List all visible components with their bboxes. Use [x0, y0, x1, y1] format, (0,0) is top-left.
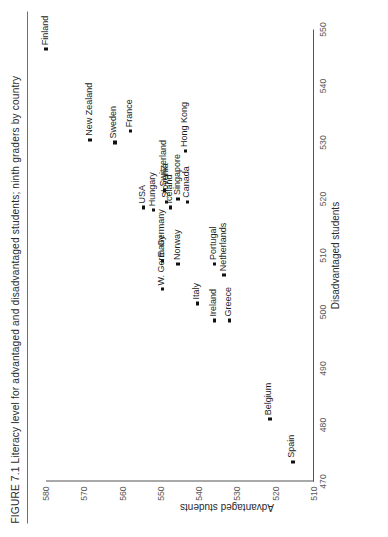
- data-point-label: Belgium: [263, 382, 273, 415]
- data-point-label: Finland: [40, 15, 50, 45]
- data-point-label: Hungary: [147, 172, 157, 206]
- data-point-marker: [152, 208, 155, 211]
- data-point-marker: [129, 129, 132, 132]
- x-tick-label: 520: [314, 191, 328, 205]
- data-point-marker: [142, 205, 145, 208]
- figure-page: FIGURE 7.1 Literacy level for advantaged…: [0, 0, 388, 537]
- data-point-label: Netherlands: [218, 222, 228, 271]
- y-axis-title: Advantaged students: [180, 502, 274, 513]
- title-divider-rule: [27, 11, 28, 523]
- data-point-label: Sweden: [108, 105, 118, 138]
- scatter-plot-area: 470480490500510520530540550 510520530540…: [46, 29, 314, 481]
- data-point-label: Singapore: [172, 153, 182, 194]
- data-point-marker: [268, 417, 271, 420]
- data-point-marker: [228, 318, 231, 321]
- data-point-marker: [186, 200, 189, 203]
- rotated-figure-canvas: FIGURE 7.1 Literacy level for advantaged…: [0, 0, 388, 537]
- y-tick-label: 520: [271, 481, 281, 500]
- data-point-marker: [44, 47, 47, 50]
- y-tick-label: 570: [79, 481, 89, 500]
- y-tick-label: 530: [232, 481, 242, 500]
- figure-title: FIGURE 7.1 Literacy level for advantaged…: [10, 11, 21, 523]
- data-point-marker: [213, 318, 216, 321]
- data-point-label: Norway: [172, 229, 182, 260]
- data-point-label: Portugal: [208, 226, 218, 260]
- data-point-marker: [161, 287, 164, 290]
- x-axis-title: Disadvantaged students: [330, 201, 341, 308]
- data-point-marker: [222, 273, 225, 276]
- x-tick-label: 480: [314, 417, 328, 431]
- data-point-label: France: [124, 99, 134, 127]
- y-tick-label: 580: [41, 481, 51, 500]
- x-tick-label: 540: [314, 78, 328, 92]
- data-point-label: W. Germany: [156, 235, 166, 285]
- figure-title-bar: FIGURE 7.1 Literacy level for advantaged…: [10, 11, 21, 523]
- data-point-marker: [169, 205, 172, 208]
- data-point-marker: [88, 138, 91, 141]
- data-point-label: Italy: [191, 283, 201, 300]
- y-tick-label: 560: [118, 481, 128, 500]
- data-point-marker: [213, 262, 216, 265]
- data-point-marker: [113, 140, 116, 143]
- data-point-marker: [291, 460, 294, 463]
- x-tick-label: 510: [314, 248, 328, 262]
- data-point-label: Greece: [223, 286, 233, 316]
- data-point-marker: [196, 301, 199, 304]
- data-point-label: Canada: [181, 166, 191, 198]
- data-point-label: Hong Kong: [179, 101, 189, 146]
- y-tick-label: 510: [309, 481, 319, 500]
- data-point-label: Spain: [286, 434, 296, 457]
- y-tick-label: 550: [156, 481, 166, 500]
- y-tick-label: 540: [194, 481, 204, 500]
- data-point-label: USA: [137, 184, 147, 203]
- data-point-label: New Zealand: [84, 82, 94, 135]
- x-tick-label: 550: [314, 22, 328, 36]
- data-point-marker: [184, 149, 187, 152]
- x-tick-label: 490: [314, 361, 328, 375]
- data-point-marker: [176, 197, 179, 200]
- data-point-label: Ireland: [208, 288, 218, 316]
- data-point-marker: [176, 262, 179, 265]
- x-tick-label: 530: [314, 135, 328, 149]
- x-tick-label: 500: [314, 304, 328, 318]
